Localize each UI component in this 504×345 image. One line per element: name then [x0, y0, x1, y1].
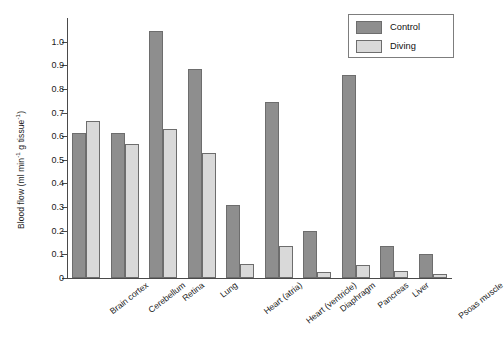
y-axis-label-mid: g tissue	[16, 120, 26, 153]
x-axis-label: Pancreas	[375, 280, 410, 310]
bar-control-9	[419, 254, 433, 278]
bar-diving-4	[240, 264, 254, 278]
bar-control-5	[265, 102, 279, 278]
y-tick-label: 0.6	[51, 131, 64, 141]
legend-swatch-diving	[356, 40, 382, 53]
bar-diving-2	[163, 129, 177, 278]
bar-diving-0	[86, 121, 100, 278]
bar-control-4	[226, 205, 240, 278]
x-axis-label: Liver	[410, 280, 431, 299]
y-tick-label: 0.9	[51, 60, 64, 70]
bar-diving-8	[394, 271, 408, 278]
y-tick-label: 0.4	[51, 178, 64, 188]
bar-group	[188, 18, 216, 278]
y-tick-label: 1.0	[51, 37, 64, 47]
bar-group	[303, 18, 331, 278]
bar-control-8	[380, 246, 394, 278]
bar-group	[265, 18, 293, 278]
legend-label-diving: Diving	[390, 41, 416, 51]
bar-control-6	[303, 231, 317, 278]
x-axis-label: Lung	[218, 280, 239, 300]
bar-diving-7	[356, 265, 370, 278]
bar-group	[72, 18, 100, 278]
y-tick-label: 0.2	[51, 226, 64, 236]
bar-control-3	[188, 69, 202, 278]
y-axis-label-close: )	[16, 111, 26, 114]
x-axis-labels: Brain cortexCerebellumRetinaLungHeart (a…	[67, 280, 472, 345]
x-axis-label: Cerebellum	[146, 280, 187, 315]
y-tick-label: 0.5	[51, 155, 64, 165]
y-tick-label: 0.3	[51, 202, 64, 212]
bar-control-1	[111, 133, 125, 278]
bar-diving-3	[202, 153, 216, 278]
bar-group	[149, 18, 177, 278]
y-tick-label: 0.7	[51, 108, 64, 118]
x-axis-line	[67, 278, 452, 279]
legend-swatch-control	[356, 21, 382, 34]
x-axis-label: Brain cortex	[108, 280, 150, 316]
y-axis-label-base: Blood flow (ml min	[16, 158, 26, 229]
legend-label-control: Control	[390, 22, 420, 32]
x-axis-label: Heart (atria)	[262, 280, 304, 316]
bar-diving-9	[433, 274, 447, 278]
bar-diving-1	[125, 144, 139, 278]
bar-control-7	[342, 75, 356, 278]
chart-legend: Control Diving	[348, 14, 454, 58]
bar-diving-5	[279, 246, 293, 278]
y-axis-label-sup2: -1	[14, 114, 21, 120]
bar-group	[226, 18, 254, 278]
y-tick-label: 0	[59, 273, 64, 283]
bar-control-0	[72, 133, 86, 278]
y-axis-label-sup1: -1	[14, 152, 21, 158]
y-tick-label: 0.8	[51, 84, 64, 94]
y-tick-label: 0.1	[51, 249, 64, 259]
bar-group	[111, 18, 139, 278]
x-axis-label: Psoas muscle	[456, 280, 504, 321]
bar-diving-6	[317, 272, 331, 278]
y-axis-label: Blood flow (ml min-1 g tissue-1)	[14, 55, 26, 285]
bar-control-2	[149, 31, 163, 278]
